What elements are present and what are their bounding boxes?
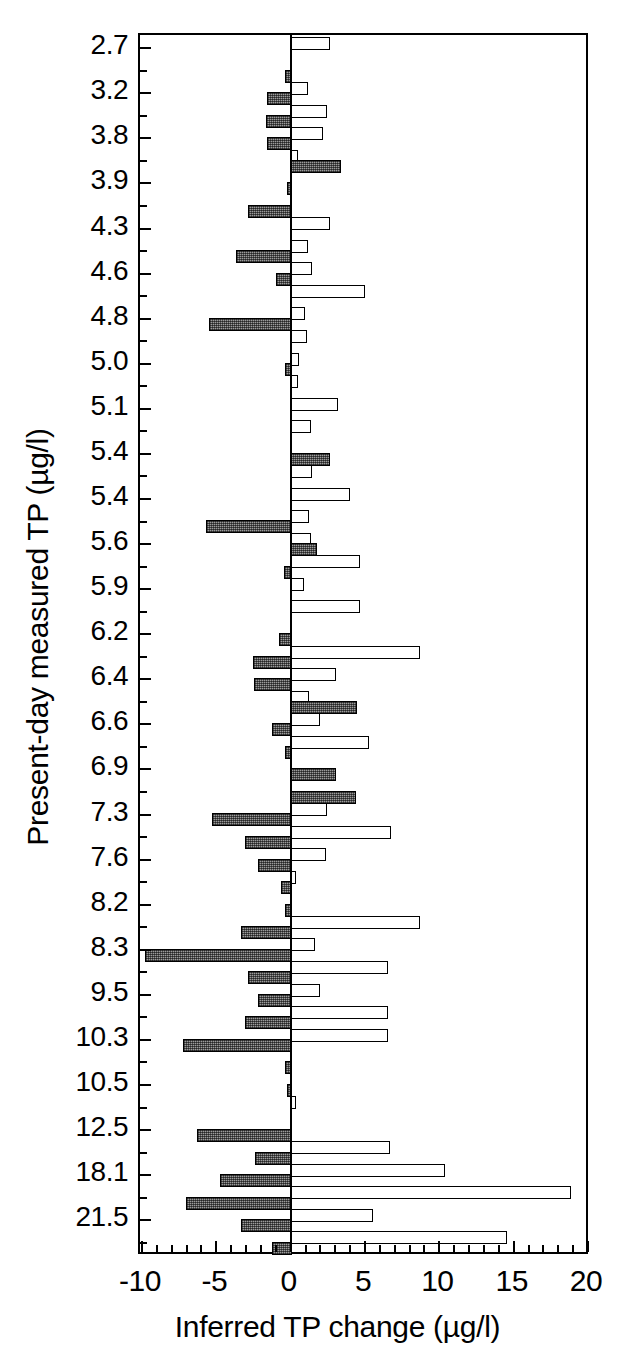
bar-open — [290, 646, 420, 659]
bar-open — [290, 82, 308, 95]
y-tick-minor — [140, 836, 147, 838]
y-tick-major — [140, 904, 151, 906]
x-tick-minor — [423, 1245, 425, 1252]
bar-hatched — [290, 768, 337, 781]
bar-open — [290, 217, 331, 230]
x-tick-minor — [200, 1245, 202, 1252]
y-tick-minor — [140, 160, 147, 162]
y-tick-label: 6.2 — [4, 617, 128, 645]
y-tick-label: 6.4 — [4, 662, 128, 690]
y-tick-label: 21.5 — [4, 1203, 128, 1231]
bar-open — [290, 984, 320, 997]
bar-open — [290, 555, 360, 568]
x-tick-minor — [468, 1245, 470, 1252]
y-tick-major — [140, 273, 151, 275]
y-tick-minor — [140, 385, 147, 387]
x-tick-minor — [334, 1245, 336, 1252]
bar-hatched — [290, 543, 317, 556]
bar-hatched — [267, 92, 291, 105]
x-tick-minor — [379, 1245, 381, 1252]
bar-hatched — [290, 701, 357, 714]
x-tick-minor — [557, 1245, 559, 1252]
bar-hatched — [186, 1197, 292, 1210]
y-tick-minor — [140, 205, 147, 207]
x-tick-minor — [319, 1245, 321, 1252]
x-tick-minor — [260, 1245, 262, 1252]
y-tick-major — [140, 859, 151, 861]
y-tick-major — [140, 1219, 151, 1221]
y-tick-major — [140, 137, 151, 139]
y-tick-label: 7.3 — [4, 798, 128, 826]
y-tick-label: 4.8 — [4, 302, 128, 330]
bar-open — [290, 1164, 445, 1177]
bar-hatched — [241, 1219, 292, 1232]
y-tick-label: 6.9 — [4, 752, 128, 780]
y-tick-major — [140, 453, 151, 455]
bar-open — [290, 803, 328, 816]
bar-open — [290, 330, 307, 343]
bar-open — [290, 848, 326, 861]
bar-hatched — [236, 250, 292, 263]
bar-hatched — [266, 115, 292, 128]
x-tick-minor — [542, 1245, 544, 1252]
y-tick-minor — [140, 656, 147, 658]
bar-open — [290, 1209, 374, 1222]
x-tick-minor — [305, 1245, 307, 1252]
y-tick-minor — [140, 566, 147, 568]
y-tick-minor — [140, 1152, 147, 1154]
y-tick-major — [140, 228, 151, 230]
bar-open — [290, 668, 337, 681]
x-tick-minor — [483, 1245, 485, 1252]
bar-open — [290, 713, 320, 726]
y-tick-label: 5.1 — [4, 392, 128, 420]
y-tick-minor — [140, 971, 147, 973]
y-tick-minor — [140, 340, 147, 342]
bar-hatched — [290, 160, 341, 173]
x-tick-minor — [572, 1245, 574, 1252]
bar-open — [290, 916, 420, 929]
bar-open — [290, 1029, 389, 1042]
y-tick-minor — [140, 1107, 147, 1109]
y-tick-label: 5.6 — [4, 527, 128, 555]
bar-hatched — [241, 926, 292, 939]
bar-hatched — [255, 1152, 291, 1165]
y-tick-minor — [140, 115, 147, 117]
bar-open — [290, 1186, 571, 1199]
bar-hatched — [248, 971, 292, 984]
x-axis-title: Inferred TP change (µg/l) — [0, 1310, 623, 1344]
y-tick-label: 8.2 — [4, 888, 128, 916]
y-tick-major — [140, 182, 151, 184]
x-tick-minor — [349, 1245, 351, 1252]
y-tick-minor — [140, 746, 147, 748]
x-tick-minor — [245, 1245, 247, 1252]
bar-hatched — [267, 137, 291, 150]
bar-open — [290, 398, 338, 411]
x-tick-major — [215, 1241, 217, 1252]
y-tick-major — [140, 814, 151, 816]
bar-open — [290, 262, 313, 275]
y-tick-major — [140, 92, 151, 94]
bar-hatched — [206, 520, 291, 533]
y-tick-major — [140, 994, 151, 996]
bar-hatched — [220, 1174, 292, 1187]
y-tick-label: 8.3 — [4, 933, 128, 961]
y-tick-major — [140, 768, 151, 770]
y-tick-label: 4.3 — [4, 212, 128, 240]
y-tick-label: 6.6 — [4, 707, 128, 735]
bar-open — [290, 578, 304, 591]
bar-open — [290, 1006, 389, 1019]
x-tick-major — [438, 1241, 440, 1252]
bar-open — [290, 488, 350, 501]
bar-open — [290, 105, 328, 118]
y-tick-label: 9.5 — [4, 978, 128, 1006]
y-tick-major — [140, 408, 151, 410]
y-tick-major — [140, 1129, 151, 1131]
bar-open — [290, 1231, 508, 1244]
y-tick-label: 5.9 — [4, 572, 128, 600]
y-tick-minor — [140, 70, 147, 72]
x-tick-minor — [409, 1245, 411, 1252]
bar-open — [290, 961, 389, 974]
bar-open — [290, 938, 316, 951]
x-tick-major — [364, 1241, 366, 1252]
y-tick-minor — [140, 295, 147, 297]
